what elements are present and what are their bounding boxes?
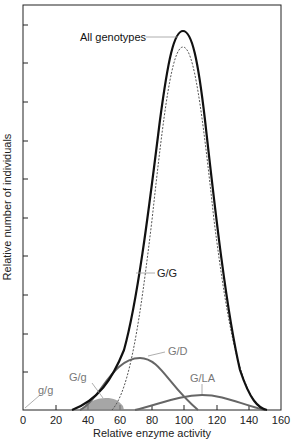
label-gg-homozygous: G/G xyxy=(157,267,177,279)
y-axis-title: Relative number of individuals xyxy=(1,133,13,280)
label-gg-heterozygous: G/g xyxy=(69,371,87,383)
x-tick-label: 60 xyxy=(114,414,126,426)
x-tick-labels: 0 20 40 60 80 100 120 140 160 xyxy=(20,414,290,426)
label-gla: G/LA xyxy=(190,372,216,384)
x-tick-label: 0 xyxy=(20,414,26,426)
x-tick-label: 80 xyxy=(146,414,158,426)
x-tick-label: 140 xyxy=(240,414,258,426)
x-tick-label: 120 xyxy=(208,414,226,426)
plot-frame xyxy=(23,5,281,410)
x-tick-label: 100 xyxy=(175,414,193,426)
x-tick-label: 40 xyxy=(82,414,94,426)
label-all-genotypes: All genotypes xyxy=(80,31,147,43)
y-ticks xyxy=(23,25,28,372)
label-gg-recessive: g/g xyxy=(38,384,53,396)
gla-curve xyxy=(135,395,265,410)
x-tick-label: 160 xyxy=(272,414,290,426)
label-gd: G/D xyxy=(168,345,188,357)
enzyme-activity-chart: 0 20 40 60 80 100 120 140 160 Relative e… xyxy=(0,0,291,440)
x-axis-title: Relative enzyme activity xyxy=(93,427,211,439)
gg-het-shaded-curve xyxy=(80,398,124,410)
x-tick-label: 20 xyxy=(50,414,62,426)
